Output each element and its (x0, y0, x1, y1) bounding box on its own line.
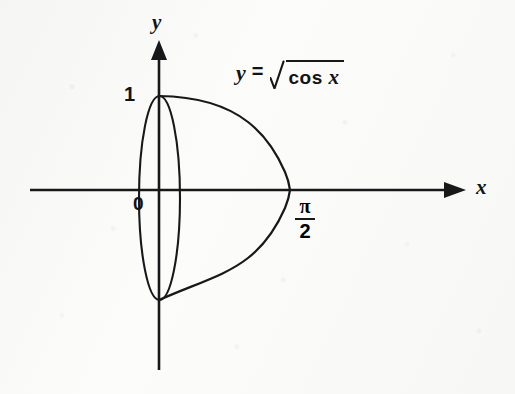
equation-lhs: y (236, 60, 246, 86)
figure-canvas: y x 1 0 π 2 y = cos x (0, 0, 515, 394)
origin-label-0: 0 (133, 194, 144, 213)
fraction-numerator: π (295, 196, 315, 217)
sqrt-radical-icon (270, 60, 285, 89)
radicand-function: cos (288, 67, 322, 88)
radicand: cos x (286, 60, 344, 90)
x-tick-label-pi-over-2: π 2 (295, 196, 315, 242)
radicand-variable: x (328, 65, 339, 89)
fraction-denominator: 2 (295, 221, 315, 242)
y-tick-label-1: 1 (124, 84, 135, 104)
equation-relation: = (252, 60, 264, 83)
y-axis-label: y (152, 12, 161, 33)
square-root-expression: cos x (270, 60, 344, 90)
x-axis-label: x (476, 177, 487, 198)
equation-label: y = cos x (236, 60, 344, 90)
arrowhead-up-icon (151, 40, 167, 60)
arrowhead-right-icon (444, 182, 466, 198)
